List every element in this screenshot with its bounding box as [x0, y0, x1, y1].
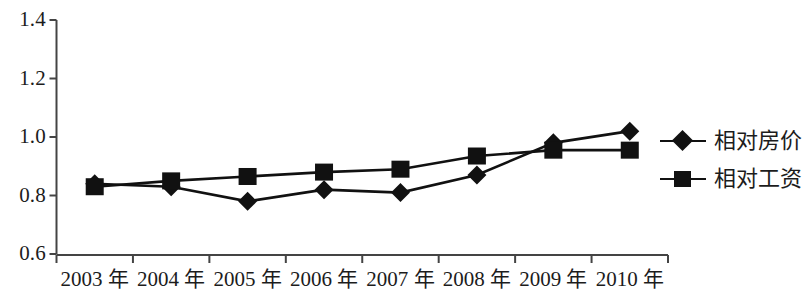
x-axis-tick-label: 2003 年 — [57, 268, 133, 290]
legend-item-relative-wage[interactable]: 相对工资 — [660, 160, 802, 198]
legend-item-relative-housing-price[interactable]: 相对房价 — [660, 122, 802, 160]
legend: 相对房价 相对工资 — [660, 122, 802, 198]
square-data-marker — [544, 142, 562, 159]
y-axis-tick-label: 1.2 — [0, 68, 46, 89]
square-data-marker — [315, 164, 333, 181]
series-layer — [85, 122, 639, 211]
square-data-marker — [621, 142, 639, 159]
diamond-data-marker — [620, 122, 639, 141]
square-data-marker — [162, 172, 180, 189]
square-marker-icon — [660, 168, 706, 190]
line-chart: 0.60.81.01.21.4 2003 年2004 年2005 年2006 年… — [0, 0, 804, 298]
x-axis-tick-label: 2009 年 — [515, 268, 591, 290]
y-axis-tick-label: 0.8 — [0, 185, 46, 206]
diamond-data-marker — [238, 192, 257, 211]
y-axis-tick-label: 0.6 — [0, 243, 46, 264]
square-data-marker — [239, 168, 257, 185]
x-axis-tick-label: 2006 年 — [286, 268, 362, 290]
y-axis-ticks — [50, 20, 57, 254]
x-axis-ticks — [57, 255, 669, 263]
x-axis-tick-label: 2005 年 — [209, 268, 285, 290]
diamond-data-marker — [315, 180, 334, 199]
x-axis-tick-label: 2010 年 — [592, 268, 668, 290]
diamond-marker-icon — [660, 130, 706, 152]
diamond-data-marker — [391, 183, 410, 202]
square-data-marker — [391, 161, 409, 178]
diamond-data-marker — [467, 166, 486, 185]
square-data-marker — [468, 148, 486, 165]
legend-label-relative-housing-price: 相对房价 — [714, 129, 802, 153]
legend-label-relative-wage: 相对工资 — [714, 167, 802, 191]
y-axis-tick-label: 1.0 — [0, 126, 46, 147]
x-axis-tick-label: 2008 年 — [439, 268, 515, 290]
x-axis-tick-label: 2004 年 — [133, 268, 209, 290]
x-axis-tick-label: 2007 年 — [362, 268, 438, 290]
y-axis-tick-label: 1.4 — [0, 9, 46, 30]
square-data-marker — [86, 178, 104, 195]
